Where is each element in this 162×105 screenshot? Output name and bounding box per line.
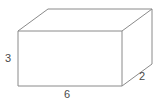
dimension-label-height: 3: [5, 53, 11, 64]
rectangular-prism-drawing: [0, 0, 162, 105]
dimension-label-width: 6: [64, 89, 70, 100]
dimension-label-depth: 2: [139, 71, 145, 82]
figure-container: 3 6 2: [0, 0, 162, 105]
prism-front-face: [18, 31, 122, 86]
